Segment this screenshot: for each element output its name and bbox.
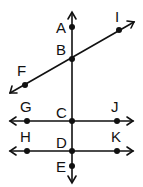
label-J: J: [111, 98, 119, 115]
geometry-diagram: A B I F G C J H D K E: [0, 0, 143, 187]
label-A: A: [56, 19, 66, 36]
point-J: [114, 118, 120, 124]
point-B: [69, 56, 75, 62]
label-B: B: [56, 41, 66, 58]
label-G: G: [20, 98, 32, 115]
point-G: [24, 118, 30, 124]
point-E: [69, 163, 75, 169]
point-C: [69, 118, 75, 124]
label-I: I: [115, 8, 119, 25]
point-D: [69, 148, 75, 154]
label-D: D: [56, 134, 67, 151]
label-E: E: [56, 158, 66, 175]
point-H: [24, 148, 30, 154]
label-K: K: [111, 128, 121, 145]
point-A: [69, 24, 75, 30]
label-F: F: [17, 62, 26, 79]
label-C: C: [56, 104, 67, 121]
point-F: [22, 82, 28, 88]
point-K: [114, 148, 120, 154]
label-H: H: [20, 128, 31, 145]
point-I: [116, 27, 122, 33]
